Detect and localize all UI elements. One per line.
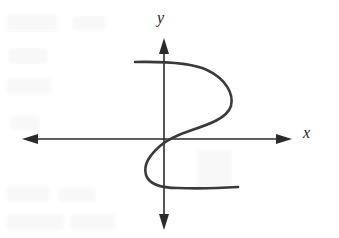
y-axis-label: y <box>157 10 164 26</box>
graph-canvas <box>0 0 339 238</box>
y-axis-top-arrowhead <box>159 38 169 54</box>
sideways-s-curve <box>135 62 238 189</box>
x-axis-label: x <box>303 125 310 141</box>
y-axis-bottom-arrowhead <box>159 214 169 230</box>
x-axis <box>22 134 292 144</box>
x-axis-right-arrowhead <box>276 134 292 144</box>
y-axis <box>159 38 169 230</box>
x-axis-left-arrowhead <box>22 134 38 144</box>
graph-figure: y x <box>0 0 339 238</box>
